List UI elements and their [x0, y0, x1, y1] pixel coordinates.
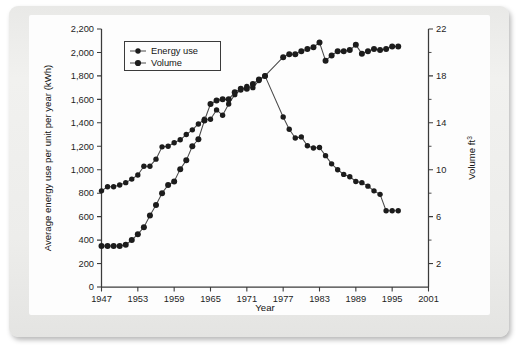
y-tick-label-left: 1,200 — [71, 142, 94, 152]
data-point — [383, 46, 389, 52]
y-tick-label-left: 1,400 — [71, 118, 94, 128]
y-tick-label-right: 10 — [436, 165, 446, 175]
x-tick-label: 1989 — [345, 294, 366, 304]
data-point — [365, 183, 370, 188]
data-point — [371, 188, 376, 193]
data-point — [286, 51, 292, 57]
line-chart: 02004006008001,0001,2001,4001,6001,8002,… — [29, 15, 490, 315]
data-point — [377, 47, 383, 53]
y-tick-label-left: 1,000 — [71, 165, 94, 175]
data-point — [165, 182, 171, 188]
y-tick-label-left: 1,800 — [71, 71, 94, 81]
y-axis-title-right-exponent: 3 — [466, 136, 473, 140]
data-point — [347, 47, 353, 53]
data-point — [220, 113, 225, 118]
y-tick-label-right: 6 — [436, 212, 441, 222]
y-tick-label-left: 2,000 — [71, 48, 94, 58]
y-tick-label-left: 200 — [78, 259, 94, 269]
data-point — [123, 242, 129, 248]
data-point — [395, 44, 401, 50]
data-point — [292, 51, 298, 57]
data-point — [141, 224, 147, 230]
plot-sheet: 02004006008001,0001,2001,4001,6001,8002,… — [29, 15, 490, 315]
y-tick-label-left: 2,200 — [71, 24, 94, 34]
data-point — [184, 132, 189, 137]
data-point — [189, 143, 195, 149]
data-point — [371, 46, 377, 52]
data-point — [147, 164, 152, 169]
data-point — [201, 117, 207, 123]
data-point — [238, 86, 244, 92]
data-point — [359, 51, 365, 57]
y-tick-label-left: 1,600 — [71, 95, 94, 105]
data-point — [129, 237, 135, 243]
data-point — [111, 243, 117, 249]
data-point — [335, 48, 341, 54]
x-tick-label: 2001 — [418, 294, 439, 304]
x-axis-title: Year — [255, 302, 275, 313]
data-point — [153, 202, 159, 208]
screenshot-root: 02004006008001,0001,2001,4001,6001,8002,… — [0, 0, 525, 353]
y-tick-label-left: 600 — [78, 212, 94, 222]
y-axis-title-right: Volume ft3 — [466, 136, 477, 180]
data-point — [232, 89, 238, 95]
y-tick-label-right: 22 — [436, 24, 446, 34]
data-point — [226, 96, 232, 102]
data-point — [396, 208, 401, 213]
data-point — [244, 86, 250, 92]
x-tick-label: 1983 — [309, 294, 330, 304]
data-point — [377, 192, 382, 197]
y-axis-left-ticks: 02004006008001,0001,2001,4001,6001,8002,… — [71, 24, 102, 292]
data-point — [323, 153, 328, 158]
x-tick-label: 1947 — [91, 294, 112, 304]
data-point — [171, 178, 177, 184]
x-tick-label: 1977 — [273, 294, 294, 304]
data-point — [311, 145, 316, 150]
data-point — [99, 188, 104, 193]
data-point — [135, 172, 140, 177]
data-point — [208, 101, 214, 107]
data-point — [196, 121, 201, 126]
data-point — [250, 81, 256, 87]
data-point — [214, 107, 219, 112]
data-point — [159, 190, 165, 196]
data-point — [129, 176, 134, 181]
data-point — [159, 144, 164, 149]
data-point — [341, 48, 347, 54]
x-tick-label: 1965 — [200, 294, 221, 304]
data-point — [208, 117, 213, 122]
data-point — [141, 164, 146, 169]
data-point — [389, 208, 394, 213]
data-point — [165, 144, 170, 149]
data-point — [147, 212, 153, 218]
data-point — [317, 145, 322, 150]
data-point — [153, 156, 158, 161]
svg-text:Volume ft3: Volume ft3 — [466, 136, 477, 180]
y-axis-title-right-base: Volume ft — [466, 140, 477, 180]
legend-label-volume: Volume — [151, 58, 182, 68]
data-point — [280, 54, 286, 60]
data-point — [317, 39, 323, 45]
data-point — [341, 172, 346, 177]
data-point — [135, 231, 141, 237]
data-point — [293, 135, 298, 140]
data-point — [359, 180, 364, 185]
data-point — [105, 243, 111, 249]
data-point — [353, 179, 358, 184]
data-point — [177, 166, 183, 172]
x-tick-label: 1959 — [164, 294, 185, 304]
data-point — [347, 174, 352, 179]
data-point — [123, 180, 128, 185]
x-tick-label: 1953 — [127, 294, 148, 304]
series-energy-use — [99, 73, 401, 213]
data-point — [323, 58, 329, 64]
data-point — [171, 140, 176, 145]
data-point — [305, 143, 310, 148]
data-point — [256, 76, 262, 82]
y-tick-label-right: 18 — [436, 71, 446, 81]
figure-card: 02004006008001,0001,2001,4001,6001,8002,… — [9, 6, 509, 337]
data-point — [195, 136, 201, 142]
chart-legend: Energy use Volume — [125, 42, 221, 71]
data-point — [298, 48, 304, 54]
y-tick-label-right: 2 — [436, 259, 441, 269]
